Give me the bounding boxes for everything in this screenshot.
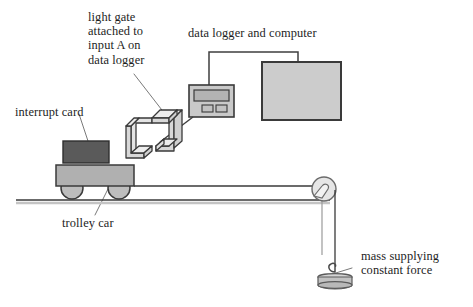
label-trolley-car: trolley car [62,216,114,230]
interrupt-card [63,141,109,163]
trolley-body [56,165,134,186]
label-data-logger-computer: data logger and computer [188,26,317,40]
data-logger-button-left[interactable] [202,105,213,112]
light-gate-bracket [126,110,182,158]
mass-hook [329,263,336,272]
label-interrupt-card: interrupt card [15,105,83,119]
label-mass-supplying-constant-force: mass supplying constant force [361,249,439,277]
trolley-car [56,165,134,199]
data-logger-button-right[interactable] [216,105,227,112]
diagram-root: light gate attached to input A on data l… [0,0,473,307]
data-logger-display [194,90,229,101]
computer-monitor [262,62,341,120]
label-light-gate: light gate attached to input A on data l… [88,10,145,67]
light-gate-leader-line [134,74,165,114]
data-logger-unit [189,85,234,117]
hanging-mass-disc [318,274,352,289]
pulley-wheel [312,177,336,201]
